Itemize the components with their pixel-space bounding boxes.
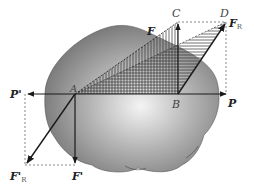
force-label-f: F bbox=[146, 25, 156, 38]
point-label-a: A bbox=[69, 83, 77, 94]
point-label-c: C bbox=[172, 7, 181, 20]
point-label-d: D bbox=[219, 7, 229, 20]
force-label-fr: FR bbox=[228, 17, 243, 31]
force-label-p: P bbox=[227, 97, 237, 110]
force-label-fr-prime: F'R bbox=[9, 170, 27, 184]
force-diagram: A B C D F FR P' P F' F'R bbox=[0, 0, 254, 194]
force-label-f-prime: F' bbox=[71, 170, 83, 183]
point-label-b: B bbox=[171, 98, 180, 111]
force-label-p-prime: P' bbox=[9, 88, 22, 101]
